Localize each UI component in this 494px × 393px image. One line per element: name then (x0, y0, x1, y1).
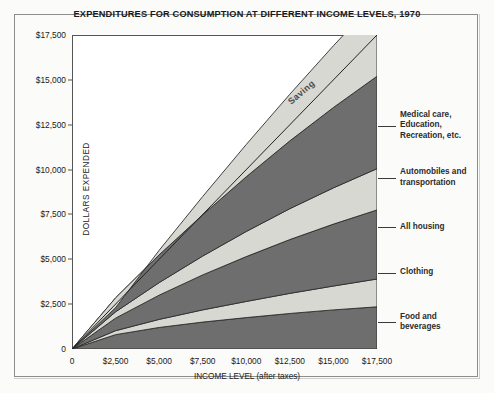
y-axis-tick-mark (68, 214, 72, 215)
x-axis-tick-label: $5,000 (146, 356, 172, 366)
y-axis-tick-label: 0 (6, 344, 66, 354)
y-axis-tick-mark (68, 304, 72, 305)
x-axis-tick-label: $12,500 (275, 356, 305, 366)
y-axis-tick-label: $7,500 (6, 209, 66, 219)
callout-label: Food andbeverages (400, 312, 441, 333)
y-axis-tick-label: $10,000 (6, 165, 66, 175)
plot-area: DOLLARS EXPENDED (72, 35, 377, 349)
y-axis-tick-label: $5,000 (6, 254, 66, 264)
callout-leader-line (378, 322, 396, 323)
y-axis-tick-mark (68, 259, 72, 260)
chart-page: EXPENDITURES FOR CONSUMPTION AT DIFFEREN… (0, 0, 494, 393)
callout-leader-line (378, 273, 396, 274)
x-axis-title: INCOME LEVEL (after taxes) (0, 372, 494, 381)
callout-label: Automobiles andtransportation (400, 167, 466, 188)
callout-leader-line (378, 126, 396, 127)
y-axis-tick-mark (68, 79, 72, 80)
x-axis-tick-label: 0 (70, 356, 75, 366)
callout-label: All housing (400, 222, 445, 233)
y-axis-tick-mark (68, 169, 72, 170)
x-axis-tick-label: $17,500 (362, 356, 392, 366)
callout-leader-line (378, 178, 396, 179)
callout-leader-line (378, 227, 396, 228)
y-axis-tick-label: $15,000 (6, 75, 66, 85)
chart-title: EXPENDITURES FOR CONSUMPTION AT DIFFEREN… (0, 9, 494, 19)
y-axis-tick-mark (68, 124, 72, 125)
y-axis-tick-label: $12,500 (6, 120, 66, 130)
x-axis-tick-label: $2,500 (103, 356, 129, 366)
callout-label: Medical care,Education,Recreation, etc. (400, 110, 461, 142)
callout-label: Clothing (400, 267, 433, 278)
y-axis-tick-label: $17,500 (6, 30, 66, 40)
y-axis-tick-label: $2,500 (6, 299, 66, 309)
y-axis-title: DOLLARS EXPENDED (82, 142, 91, 236)
x-axis-tick-label: $7,500 (190, 356, 216, 366)
x-axis-tick-label: $15,000 (318, 356, 348, 366)
x-axis-tick-label: $10,000 (231, 356, 261, 366)
stacked-area-svg (72, 35, 377, 349)
